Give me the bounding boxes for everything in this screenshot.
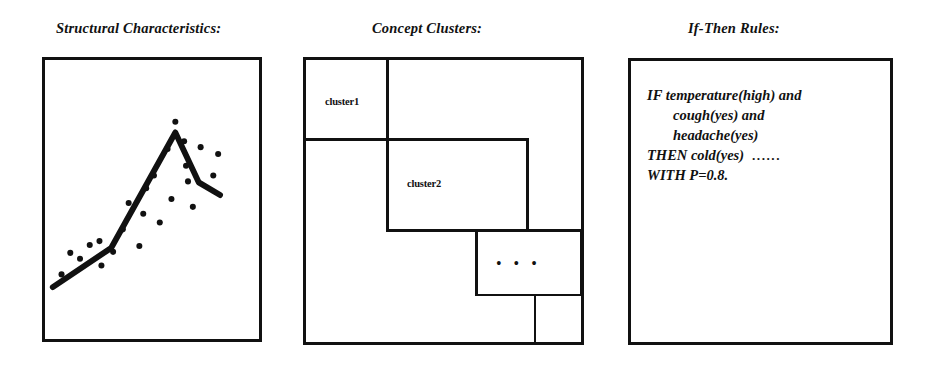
scatter-point xyxy=(157,219,163,225)
scatter-point xyxy=(67,250,73,256)
cluster-more-dots: • • • xyxy=(496,256,541,272)
scatter-point xyxy=(190,204,196,210)
rule-text-block: IF temperature(high) and cough(yes) and … xyxy=(647,85,885,185)
cluster1-label: cluster1 xyxy=(325,96,359,107)
scatter-point xyxy=(168,196,174,202)
scatter-point xyxy=(126,200,132,206)
rule-line: cough(yes) and xyxy=(647,105,885,125)
rule-line: IF temperature(high) and xyxy=(647,85,885,105)
trendline xyxy=(53,132,220,287)
figure-stage: Structural Characteristics: Concept Clus… xyxy=(0,0,934,375)
panel-if-then-rules: IF temperature(high) and cough(yes) and … xyxy=(628,58,893,345)
scatter-point xyxy=(77,256,83,262)
scatter-point xyxy=(210,172,216,178)
rules-ellipsis: ······ xyxy=(647,149,885,169)
panel-concept-clusters: cluster1 cluster2 • • • xyxy=(303,57,584,345)
scatter-point xyxy=(98,263,104,269)
cluster2-label: cluster2 xyxy=(407,178,441,189)
scatter-point xyxy=(215,151,221,157)
scatter-point xyxy=(140,211,146,217)
scatter-point xyxy=(185,178,191,184)
panel-title-rules: If-Then Rules: xyxy=(688,20,780,37)
rule-line: headache(yes) xyxy=(647,125,885,145)
scatter-plot xyxy=(45,60,259,339)
panel-title-structural: Structural Characteristics: xyxy=(56,20,221,37)
scatter-point xyxy=(96,238,102,244)
scatter-point xyxy=(136,243,142,249)
panel-title-clusters: Concept Clusters: xyxy=(372,20,482,37)
scatter-point xyxy=(87,242,93,248)
panel-structural-characteristics xyxy=(42,57,262,342)
scatter-point xyxy=(198,144,204,150)
scatter-point xyxy=(172,119,178,125)
